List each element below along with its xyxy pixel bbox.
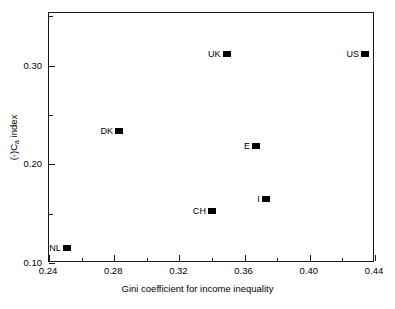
- y-axis-title-prefix: (-)C: [9, 143, 20, 159]
- x-tick-major: [375, 255, 376, 261]
- y-tick-minor: [49, 16, 53, 17]
- x-tick-minor: [82, 258, 83, 262]
- data-point-marker: [208, 208, 216, 214]
- y-axis-title-subscript: a: [14, 140, 21, 144]
- y-tick-major: [49, 66, 55, 67]
- data-point-label: CH: [193, 206, 207, 216]
- x-tick-minor: [277, 258, 278, 262]
- y-tick-label: 0.10: [24, 257, 43, 268]
- y-tick-major: [49, 164, 55, 165]
- x-tick-major: [179, 255, 180, 261]
- y-axis-title: (-)Ca index: [4, 0, 24, 274]
- data-point-marker: [252, 143, 260, 149]
- plot-area: UKUSDKEICHNL: [48, 12, 374, 262]
- data-point-label: DK: [100, 126, 114, 136]
- x-tick-major: [310, 255, 311, 261]
- y-tick-label: 0.30: [24, 59, 43, 70]
- data-point-marker: [262, 196, 270, 202]
- y-axis-title-suffix: index: [9, 114, 20, 139]
- data-point-marker: [63, 245, 71, 251]
- y-tick-major: [49, 263, 55, 264]
- x-tick-label: 0.40: [300, 265, 319, 276]
- x-tick-major: [114, 255, 115, 261]
- scatter-plot-figure: UKUSDKEICHNL Gini coefficient for income…: [0, 0, 395, 309]
- x-tick-major: [245, 255, 246, 261]
- x-tick-minor: [212, 258, 213, 262]
- x-axis-title: Gini coefficient for income inequality: [0, 283, 395, 294]
- y-tick-minor: [49, 115, 53, 116]
- x-tick-minor: [342, 258, 343, 262]
- x-tick-minor: [147, 258, 148, 262]
- data-point-label: E: [244, 141, 251, 151]
- x-tick-label: 0.32: [169, 265, 188, 276]
- data-point-label: UK: [208, 49, 222, 59]
- data-point-marker: [361, 51, 369, 57]
- data-point-label: US: [347, 49, 361, 59]
- data-point-marker: [115, 128, 123, 134]
- data-point-marker: [223, 51, 231, 57]
- x-tick-label: 0.36: [234, 265, 253, 276]
- data-point-label: I: [257, 194, 261, 204]
- y-tick-label: 0.20: [24, 158, 43, 169]
- x-tick-major: [49, 255, 50, 261]
- data-point-label: NL: [49, 243, 62, 253]
- y-tick-minor: [49, 214, 53, 215]
- x-tick-label: 0.28: [104, 265, 123, 276]
- x-tick-label: 0.44: [365, 265, 384, 276]
